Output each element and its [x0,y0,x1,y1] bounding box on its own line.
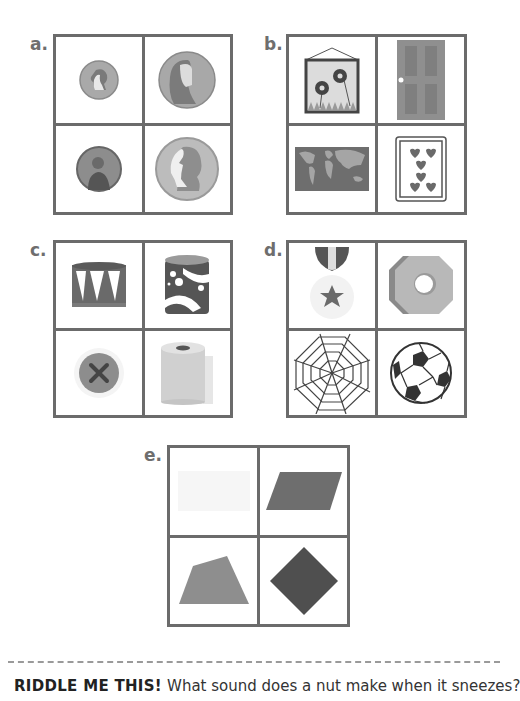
riddle-heading: RIDDLE ME THIS! [14,677,162,695]
coin-icon [79,60,119,100]
puzzle-label-c: c. [30,240,47,260]
cell-medal[interactable] [289,243,375,328]
cell-small-coin[interactable] [56,37,142,123]
cell-drum[interactable] [56,243,142,328]
cell-parallelogram[interactable] [260,448,347,535]
cell-spider-web[interactable] [289,331,375,416]
drum-icon [70,261,128,309]
dashed-divider [8,661,500,663]
cell-soccer-ball[interactable] [378,331,464,416]
diamond-shape-icon [270,547,338,615]
hex-nut-icon [389,256,453,314]
cell-framed-picture[interactable] [289,37,375,123]
cell-large-coin-profile[interactable] [145,126,231,212]
puzzle-grid-e [167,445,350,627]
cell-large-coin-portrait[interactable] [145,37,231,123]
puzzle-grid-d [286,240,467,418]
puzzle-label-d: d. [264,240,283,260]
puzzle-grid-a [53,34,233,215]
framed-flower-picture-icon [304,46,360,114]
spider-web-icon [292,332,372,414]
cell-faint-rectangle[interactable] [170,448,257,535]
puzzle-label-b: b. [264,34,283,54]
star-medal-icon [307,247,357,323]
patterned-can-icon [163,254,211,316]
cell-world-map[interactable] [289,126,375,212]
puzzle-label-e: e. [144,445,162,465]
cell-hex-nut[interactable] [378,243,464,328]
door-icon [397,40,445,120]
coin-icon [158,51,216,109]
coin-icon [155,137,219,201]
riddle-question: What sound does a nut make when it sneez… [167,677,520,695]
rectangle-shape-icon [178,471,250,511]
world-map-icon [295,147,369,191]
parallelogram-shape-icon [266,472,342,510]
cell-door[interactable] [378,37,464,123]
playing-card-icon [395,136,447,202]
cell-diamond[interactable] [260,538,347,625]
cell-trapezoid[interactable] [170,538,257,625]
sewing-button-icon [73,347,125,399]
puzzle-label-a: a. [30,34,48,54]
cell-button[interactable] [56,331,142,416]
cell-dark-coin[interactable] [56,126,142,212]
puzzle-grid-c [53,240,233,418]
coin-icon [76,146,122,192]
cell-playing-card[interactable] [378,126,464,212]
quadrilateral-shape-icon [179,556,249,606]
toilet-paper-icon [159,340,215,406]
cell-patterned-can[interactable] [145,243,231,328]
soccer-ball-icon [389,341,453,405]
puzzle-grid-b [286,34,467,215]
cell-toilet-paper[interactable] [145,331,231,416]
riddle-line: RIDDLE ME THIS! What sound does a nut ma… [14,676,520,695]
